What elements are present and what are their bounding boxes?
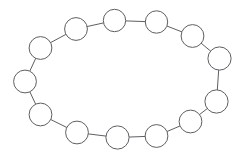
graph-node: [103, 9, 125, 31]
node-layer: [14, 9, 232, 149]
graph-edge: [30, 58, 36, 71]
graph-edge: [167, 126, 180, 132]
graph-edge: [51, 120, 67, 128]
graph-node: [145, 125, 168, 148]
graph-edge: [167, 26, 182, 32]
cycle-graph: [0, 0, 248, 160]
graph-node: [65, 18, 88, 41]
graph-node: [29, 37, 52, 60]
graph-node: [66, 121, 89, 144]
graph-node: [181, 25, 204, 48]
graph-node: [205, 90, 228, 113]
graph-edge: [217, 70, 218, 90]
graph-node: [208, 47, 231, 70]
graph-edge: [30, 92, 36, 104]
graph-edge: [201, 43, 210, 51]
graph-node: [29, 103, 52, 126]
graph-edge: [200, 109, 208, 115]
graph-edge: [126, 21, 146, 22]
graph-edge: [129, 136, 145, 137]
diagram-canvas: [0, 0, 248, 160]
graph-edge: [87, 23, 103, 27]
graph-node: [179, 110, 202, 133]
graph-node: [106, 126, 129, 149]
graph-node: [145, 11, 167, 33]
graph-node: [14, 70, 37, 93]
graph-edge: [88, 134, 106, 136]
graph-edge: [51, 34, 66, 42]
